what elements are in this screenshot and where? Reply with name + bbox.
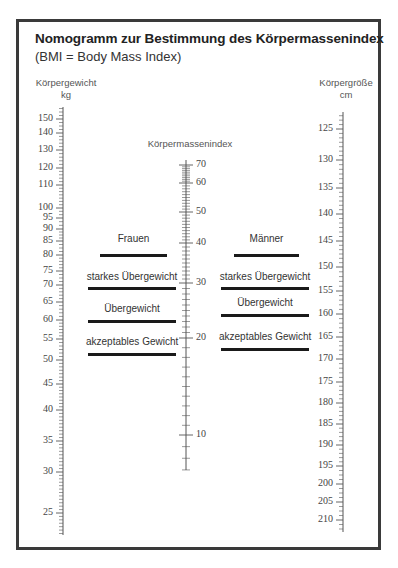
height-tick-label: 210: [318, 513, 333, 524]
women-acceptable-weight-label: akzeptables Gewicht: [86, 336, 178, 347]
weight-tick-label: 140: [38, 126, 53, 137]
men-header-line: [234, 254, 299, 257]
weight-tick-label: 130: [38, 143, 53, 154]
bmi-tick-label: 20: [196, 331, 206, 342]
women-overweight-label: Übergewicht: [86, 303, 178, 314]
men-header: Männer: [234, 233, 299, 244]
height-tick-label: 140: [318, 207, 333, 218]
weight-tick-label: 45: [43, 377, 53, 388]
weight-tick-label: 25: [43, 506, 53, 517]
nomogram-scales: 1501401301201101009590858075706560555045…: [0, 0, 398, 568]
women-acceptable-weight-line: [88, 353, 176, 356]
height-tick-label: 125: [318, 122, 333, 133]
women-header-line: [100, 254, 167, 257]
women-severe-overweight-line: [88, 287, 176, 290]
women-severe-overweight-label: starkes Übergewicht: [86, 271, 178, 282]
weight-tick-label: 85: [43, 234, 53, 245]
height-tick-label: 195: [318, 459, 333, 470]
weight-tick-label: 40: [43, 403, 53, 414]
height-tick-label: 135: [318, 181, 333, 192]
weight-tick-label: 60: [43, 313, 53, 324]
height-tick-label: 145: [318, 234, 333, 245]
height-tick-label: 130: [318, 153, 333, 164]
men-overweight-line: [221, 314, 309, 317]
weight-tick-label: 95: [43, 211, 53, 222]
height-tick-label: 185: [318, 417, 333, 428]
bmi-tick-label: 60: [196, 176, 206, 187]
weight-tick-label: 65: [43, 295, 53, 306]
height-tick-label: 180: [318, 396, 333, 407]
bmi-tick-label: 10: [196, 428, 206, 439]
weight-tick-label: 55: [43, 332, 53, 343]
men-acceptable-weight-label: akzeptables Gewicht: [219, 331, 311, 342]
weight-tick-label: 80: [43, 248, 53, 259]
men-acceptable-weight-line: [221, 348, 309, 351]
bmi-tick-label: 40: [196, 236, 206, 247]
height-tick-label: 160: [318, 307, 333, 318]
height-tick-label: 175: [318, 375, 333, 386]
height-tick-label: 170: [318, 352, 333, 363]
men-severe-overweight-label: starkes Übergewicht: [219, 271, 311, 282]
weight-tick-label: 150: [38, 112, 53, 123]
weight-tick-label: 75: [43, 264, 53, 275]
height-tick-label: 190: [318, 438, 333, 449]
women-header: Frauen: [100, 233, 167, 244]
height-tick-label: 165: [318, 330, 333, 341]
men-severe-overweight-line: [221, 287, 309, 290]
weight-tick-label: 30: [43, 465, 53, 476]
weight-tick-label: 90: [43, 222, 53, 233]
weight-tick-label: 35: [43, 434, 53, 445]
bmi-tick-label: 50: [196, 205, 206, 216]
men-overweight-label: Übergewicht: [219, 297, 311, 308]
bmi-tick-label: 30: [196, 276, 206, 287]
height-tick-label: 155: [318, 284, 333, 295]
weight-tick-label: 70: [43, 278, 53, 289]
bmi-tick-label: 70: [196, 158, 206, 169]
women-overweight-line: [88, 320, 176, 323]
height-tick-label: 205: [318, 495, 333, 506]
weight-tick-label: 120: [38, 161, 53, 172]
height-tick-label: 150: [318, 260, 333, 271]
height-tick-label: 200: [318, 477, 333, 488]
weight-tick-label: 110: [38, 178, 53, 189]
weight-tick-label: 50: [43, 353, 53, 364]
